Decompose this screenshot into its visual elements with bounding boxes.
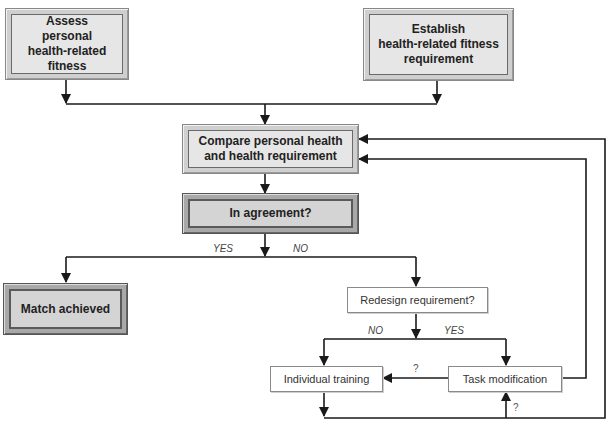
task-modification-label: Task modification <box>463 373 547 385</box>
task-to-training-question-label: ? <box>413 363 419 374</box>
in-agreement-decision-box: In agreement? <box>182 193 359 234</box>
compare-line-2: and health requirement <box>198 149 342 164</box>
individual-training-box: Individual training <box>270 366 383 392</box>
establish-line-3: requirement <box>378 52 499 67</box>
assess-line-3: health-related <box>28 44 107 59</box>
establish-line-1: Establish <box>378 22 499 37</box>
redesign-yes-label: YES <box>444 325 464 336</box>
redesign-requirement-box: Redesign requirement? <box>347 287 488 313</box>
task-modification-box: Task modification <box>448 366 562 392</box>
assess-line-1: Assess <box>28 14 107 29</box>
individual-training-label: Individual training <box>284 373 370 385</box>
establish-requirement-box: Establish health-related fitness require… <box>363 8 514 81</box>
match-achieved-label: Match achieved <box>9 289 122 329</box>
redesign-no-label: NO <box>368 325 383 336</box>
establish-line-2: health-related fitness <box>378 37 499 52</box>
agreement-no-label: NO <box>293 243 308 254</box>
redesign-label: Redesign requirement? <box>360 294 474 306</box>
loop-to-task-question-label: ? <box>513 402 519 413</box>
compare-box: Compare personal health and health requi… <box>182 124 359 174</box>
in-agreement-label: In agreement? <box>188 199 353 228</box>
compare-line-1: Compare personal health <box>198 134 342 149</box>
assess-personal-fitness-box: Assess personal health-related fitness <box>5 8 129 80</box>
assess-line-2: personal <box>28 29 107 44</box>
assess-line-4: fitness <box>28 59 107 74</box>
agreement-yes-label: YES <box>213 243 233 254</box>
match-achieved-box: Match achieved <box>3 283 128 335</box>
